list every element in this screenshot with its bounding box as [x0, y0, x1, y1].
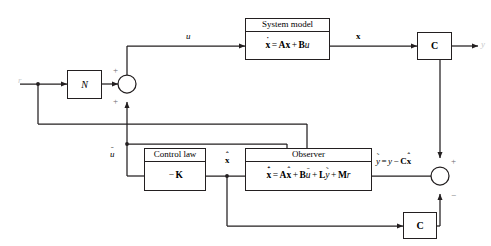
block-c-bottom[interactable]: C — [403, 212, 437, 239]
signal-label-output: y — [481, 40, 485, 49]
signal-label-state-estimate: ˆx — [225, 156, 230, 165]
block-n-gain-label: N — [81, 80, 88, 90]
block-system-model-header: System model — [246, 19, 329, 32]
block-observer[interactable]: Observer ̇ˆx=Aˆx+B̄u+L˜y+Mr — [245, 148, 372, 191]
signal-label-control-input: u — [186, 32, 191, 41]
signal-label-state: x — [356, 32, 361, 41]
block-control-law[interactable]: Control law −K — [144, 148, 206, 191]
block-system-model-equation: ̇x=Ax+Bu — [246, 32, 329, 59]
signal-label-control-estimate: ̄u — [110, 150, 115, 159]
signal-label-error: ˜y=y−Cˆx — [376, 157, 411, 166]
block-c-bottom-label: C — [416, 221, 423, 231]
system-model-equation-text: ̇x=Ax+Bu — [265, 41, 309, 51]
sign-right-sum-top: + — [451, 157, 456, 166]
block-system-model[interactable]: System model ̇x=Ax+Bu — [245, 18, 330, 60]
junction-dot-xhat — [225, 174, 229, 178]
junction-dot-reference — [36, 82, 40, 86]
block-c-top[interactable]: C — [417, 32, 452, 60]
sign-right-sum-bottom: − — [451, 191, 456, 200]
block-control-law-equation: −K — [145, 162, 205, 190]
block-diagram-canvas: N System model ̇x=Ax+Bu C Control law −K… — [0, 0, 491, 246]
sign-left-sum-bottom: + — [113, 97, 118, 106]
block-c-top-label: C — [431, 41, 438, 51]
observer-equation-text: ̇ˆx=Aˆx+B̄u+L˜y+Mr — [266, 171, 350, 181]
block-observer-equation: ̇ˆx=Aˆx+B̄u+L˜y+Mr — [246, 162, 371, 190]
sign-left-sum-top: + — [113, 66, 118, 75]
block-n-gain[interactable]: N — [67, 70, 102, 99]
summing-junction-left — [118, 75, 136, 93]
summing-junction-right — [431, 167, 449, 185]
signal-label-reference: r — [18, 76, 22, 85]
junction-dot-ubar — [125, 142, 129, 146]
block-control-law-header: Control law — [145, 149, 205, 162]
block-observer-header: Observer — [246, 149, 371, 162]
control-law-equation-text: −K — [167, 171, 183, 181]
